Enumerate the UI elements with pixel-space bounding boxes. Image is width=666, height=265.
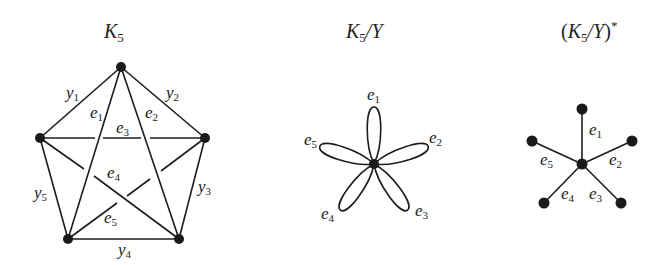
k5-vertex-right (200, 133, 210, 143)
edge-e5 (68, 138, 205, 239)
edge-y5 (40, 138, 68, 239)
label-spoke-e1: e1 (589, 120, 602, 140)
label-y4: y4 (116, 240, 132, 260)
dual-panel: (K5/Y)* e1 e2 e3 e4 e5 (527, 18, 638, 209)
k5-quotient-title: K5/Y (345, 20, 384, 45)
k5-title: K5 (103, 20, 124, 45)
label-e4: e4 (107, 163, 121, 183)
bouquet-vertex (369, 159, 379, 169)
label-loop-e3: e3 (415, 201, 429, 221)
label-spoke-e2: e2 (609, 150, 622, 170)
dual-title: (K5/Y)* (561, 18, 617, 45)
label-loop-e2: e2 (429, 128, 442, 148)
label-loop-e5: e5 (304, 130, 318, 150)
k5-vertex-top (116, 62, 126, 72)
label-spoke-e3: e3 (589, 184, 603, 204)
label-y1: y1 (64, 83, 79, 103)
diagram-canvas: K5 (0, 0, 666, 265)
k5-quotient-panel: K5/Y e1 e2 e3 e4 e5 (304, 20, 442, 224)
star-center-vertex (577, 159, 588, 170)
star-vertex-e4 (539, 198, 550, 209)
edge-y1 (40, 67, 121, 138)
label-spoke-e4: e4 (561, 184, 575, 204)
spoke-e2 (582, 141, 632, 164)
label-y3: y3 (196, 177, 212, 197)
star-vertex-e3 (616, 198, 627, 209)
k5-panel: K5 (32, 20, 212, 260)
star-vertex-e5 (527, 136, 538, 147)
label-spoke-e5: e5 (540, 150, 554, 170)
loop-e2 (372, 140, 430, 170)
star-vertex-e1 (577, 104, 588, 115)
label-e2: e2 (145, 103, 158, 123)
k5-vertex-bottom-right (174, 234, 184, 244)
loop-e1 (367, 107, 381, 164)
label-loop-e1: e1 (367, 85, 380, 105)
star-vertex-e2 (627, 136, 638, 147)
k5-vertex-left (35, 133, 45, 143)
label-e5: e5 (104, 208, 118, 228)
label-loop-e4: e4 (321, 204, 335, 224)
loop-e5 (318, 140, 376, 170)
label-e1: e1 (90, 103, 103, 123)
label-y5: y5 (32, 183, 48, 203)
k5-vertex-bottom-left (63, 234, 73, 244)
label-e3: e3 (116, 118, 130, 138)
label-y2: y2 (164, 83, 179, 103)
